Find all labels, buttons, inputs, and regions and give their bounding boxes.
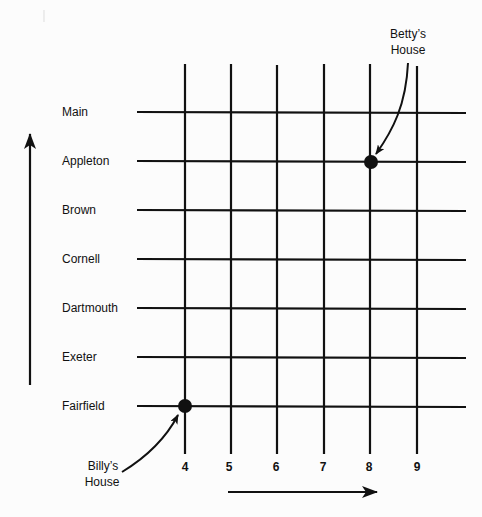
street-grid-map: Main Appleton Brown Cornell Dartmouth Ex…	[0, 0, 482, 517]
billy-house-label-line2: House	[85, 475, 120, 489]
street-label-brown: Brown	[62, 203, 96, 217]
betty-house-label-line2: House	[391, 43, 426, 57]
street-label-fairfield: Fairfield	[62, 399, 105, 413]
avenue-labels: 4 5 6 7 8 9	[182, 460, 421, 474]
street-label-appleton: Appleton	[62, 154, 109, 168]
street-label-main: Main	[62, 105, 88, 119]
avenue-label-7: 7	[320, 460, 327, 474]
street-line-appleton	[137, 161, 466, 162]
avenue-label-8: 8	[366, 460, 373, 474]
avenue-label-5: 5	[226, 460, 233, 474]
street-line-cornell	[137, 259, 466, 260]
avenue-label-6: 6	[273, 460, 280, 474]
betty-house-dot-icon	[364, 155, 378, 169]
street-line-main	[137, 112, 466, 113]
avenue-label-9: 9	[414, 460, 421, 474]
billy-house-label-line1: Billy’s	[88, 459, 118, 473]
street-label-dartmouth: Dartmouth	[62, 301, 118, 315]
street-labels: Main Appleton Brown Cornell Dartmouth Ex…	[62, 105, 118, 413]
betty-house-label-line1: Betty’s	[390, 27, 426, 41]
street-label-cornell: Cornell	[62, 252, 100, 266]
betty-callout-arrow-icon	[376, 63, 408, 154]
avenue-label-4: 4	[182, 460, 189, 474]
street-label-exeter: Exeter	[62, 350, 97, 364]
street-line-brown	[137, 210, 466, 211]
billy-callout-arrow-icon	[122, 415, 178, 472]
billy-house-dot-icon	[178, 399, 192, 413]
street-line-exeter	[137, 357, 466, 358]
street-line-dartmouth	[137, 308, 466, 309]
